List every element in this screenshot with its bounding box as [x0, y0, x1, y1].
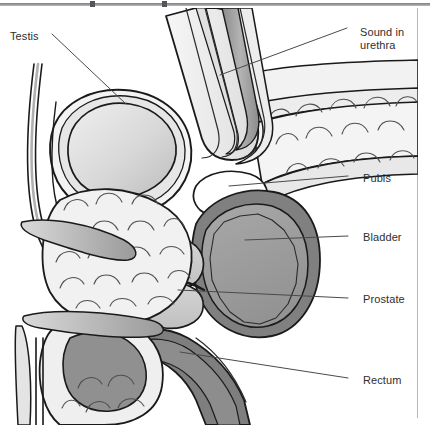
rule-tick: [90, 1, 95, 7]
label-rectum: Rectum: [363, 374, 402, 387]
rule-tick: [162, 1, 167, 7]
label-bladder: Bladder: [363, 231, 402, 244]
bladder: [192, 190, 320, 337]
label-sound-line2: urethra: [360, 39, 396, 52]
testis: [68, 103, 176, 197]
abdominal-wall: [248, 60, 418, 202]
leader-testis: [52, 34, 126, 104]
label-pubis: Pubis: [363, 172, 391, 185]
anatomy-svg: [0, 8, 418, 425]
anatomy-illustration: [0, 8, 418, 425]
top-rule: [0, 3, 430, 6]
label-prostate: Prostate: [363, 293, 405, 306]
label-sound: Sound in: [360, 26, 404, 39]
label-testis: Testis: [10, 30, 39, 43]
figure-page: Testis Sound in urethra Pubis Bladder Pr…: [0, 0, 430, 425]
